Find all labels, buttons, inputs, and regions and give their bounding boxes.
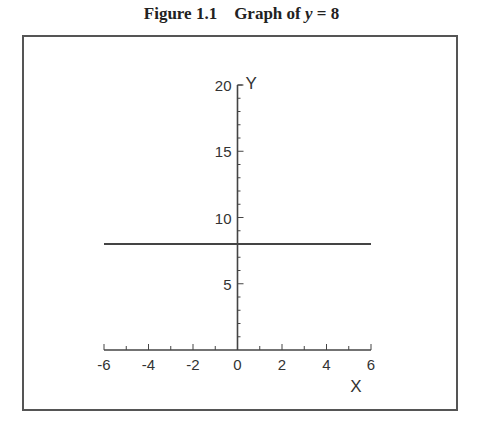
y-tick-label: 10 (215, 210, 232, 227)
y-tick-label: 20 (215, 77, 232, 94)
x-tick-label: -2 (186, 356, 199, 373)
plot-area: -6-4-202465101520YX (0, 0, 483, 430)
y-axis-label: Y (246, 74, 257, 93)
x-axis-label: X (350, 377, 361, 396)
y-tick-label: 15 (215, 143, 232, 160)
x-tick-label: 4 (322, 356, 330, 373)
x-tick-label: 0 (233, 356, 241, 373)
x-tick-label: -4 (142, 356, 155, 373)
x-tick-label: 2 (278, 356, 286, 373)
x-tick-label: -6 (97, 356, 110, 373)
y-tick-label: 5 (223, 276, 231, 293)
x-tick-label: 6 (367, 356, 375, 373)
